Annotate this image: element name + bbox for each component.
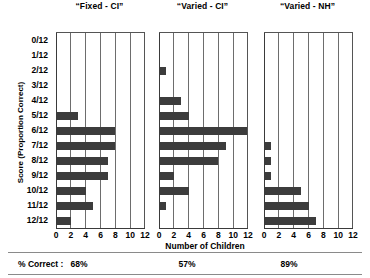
- panel-varied-nh: [264, 32, 353, 228]
- panel-title-fixed-ci: “Fixed - CI”: [55, 1, 144, 11]
- y-tick-label: 7/12: [31, 140, 48, 150]
- y-tick-label: 0/12: [31, 35, 48, 45]
- gridline: [352, 33, 353, 228]
- x-tick-label: 12: [140, 230, 149, 240]
- panel-title-varied-nh: “Varied - NH”: [263, 1, 352, 11]
- x-tick-label: 10: [228, 230, 237, 240]
- bar: [265, 142, 271, 150]
- gridline: [293, 33, 294, 228]
- gridline: [278, 33, 279, 228]
- x-tick-label: 2: [68, 230, 73, 240]
- footer-rule-bottom: [8, 274, 362, 275]
- bar: [57, 187, 86, 195]
- bar: [57, 202, 93, 210]
- percent-correct-fixed-ci: 68%: [44, 259, 114, 269]
- x-tick-label: 10: [333, 230, 342, 240]
- y-tick-label: 11/12: [27, 200, 48, 210]
- x-tick-label: 2: [171, 230, 176, 240]
- bar: [160, 112, 189, 120]
- x-tick-label: 2: [276, 230, 281, 240]
- y-tick-label: 5/12: [31, 110, 48, 120]
- y-tick-label: 3/12: [31, 80, 48, 90]
- y-tick-label: 9/12: [31, 170, 48, 180]
- panel-titles: “Fixed - CI” “Varied - CI” “Varied - NH”: [55, 1, 366, 17]
- gridline: [338, 33, 339, 228]
- gridline: [308, 33, 309, 228]
- bar: [57, 127, 115, 135]
- bar: [160, 172, 174, 180]
- panel-fixed-ci: [56, 32, 145, 228]
- gridline: [247, 33, 248, 228]
- x-tick-label: 6: [201, 230, 206, 240]
- x-tick-label: 0: [157, 230, 162, 240]
- x-tick-label: 8: [113, 230, 118, 240]
- x-tick-label: 0: [262, 230, 267, 240]
- percent-correct-varied-nh: 89%: [254, 259, 324, 269]
- bar: [160, 202, 166, 210]
- y-tick-label: 2/12: [31, 65, 48, 75]
- y-axis-line: [264, 33, 265, 228]
- x-tick-label: 4: [83, 230, 88, 240]
- y-tick-label: 4/12: [31, 95, 48, 105]
- panel-varied-ci: [159, 32, 248, 228]
- bar: [160, 127, 248, 135]
- y-axis-tick-labels: 0/121/122/123/124/125/126/127/128/129/12…: [8, 28, 50, 232]
- plot-area-varied-ci: [159, 32, 248, 228]
- x-axis-label: Number of Children: [115, 241, 295, 251]
- x-tick-label: 12: [243, 230, 252, 240]
- bar: [57, 172, 108, 180]
- x-tick-label: 8: [216, 230, 221, 240]
- x-tick-label: 6: [306, 230, 311, 240]
- y-tick-label: 12/12: [27, 215, 48, 225]
- gridline: [323, 33, 324, 228]
- bar: [265, 157, 271, 165]
- x-tick-label: 4: [291, 230, 296, 240]
- x-tick-label: 6: [98, 230, 103, 240]
- y-tick-label: 6/12: [31, 125, 48, 135]
- x-tick-label: 10: [125, 230, 134, 240]
- figure-container: “Fixed - CI” “Varied - CI” “Varied - NH”…: [0, 0, 370, 278]
- bar: [57, 217, 71, 225]
- bar: [160, 142, 226, 150]
- x-tick-label: 12: [348, 230, 357, 240]
- bar: [160, 187, 189, 195]
- bar: [265, 202, 309, 210]
- bar: [265, 187, 301, 195]
- bar: [160, 157, 218, 165]
- bar: [57, 142, 115, 150]
- bar: [57, 157, 108, 165]
- panel-title-varied-ci: “Varied - CI”: [158, 1, 247, 11]
- x-tick-label: 4: [186, 230, 191, 240]
- footer-rule-top: [8, 252, 362, 253]
- percent-correct-varied-ci: 57%: [152, 259, 222, 269]
- plot-area-varied-nh: [264, 32, 353, 228]
- y-tick-label: 8/12: [31, 155, 48, 165]
- bar: [265, 217, 316, 225]
- x-tick-label: 0: [54, 230, 59, 240]
- bar: [160, 67, 166, 75]
- bar: [57, 112, 78, 120]
- x-tick-label: 8: [321, 230, 326, 240]
- gridline: [130, 33, 131, 228]
- y-tick-label: 10/12: [27, 185, 48, 195]
- bar: [265, 172, 271, 180]
- gridline: [144, 33, 145, 228]
- plot-area-fixed-ci: [56, 32, 145, 228]
- y-tick-label: 1/12: [31, 50, 48, 60]
- bar: [160, 97, 181, 105]
